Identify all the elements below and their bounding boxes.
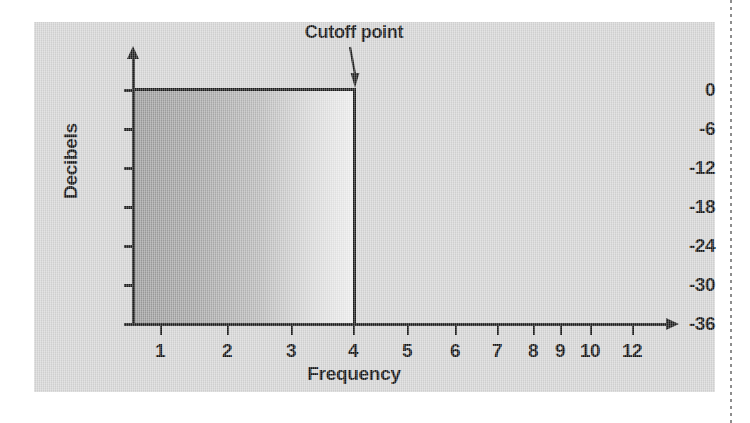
y-tick-label: -12 [653, 157, 715, 179]
cutoff-point-label: Cutoff point [214, 22, 494, 43]
y-tick-label: -36 [653, 313, 715, 335]
x-tick-label: 7 [492, 340, 502, 362]
cutoff-point-arrow-icon [346, 46, 364, 88]
y-tick [124, 128, 133, 131]
x-tick [632, 326, 634, 335]
x-tick [497, 326, 499, 335]
x-axis-title: Frequency [34, 363, 674, 385]
x-tick-label: 5 [402, 340, 412, 362]
y-tick [124, 245, 133, 248]
passband-top-edge [132, 88, 356, 91]
y-axis-arrow-icon [127, 46, 139, 59]
x-tick [353, 326, 355, 335]
x-tick-label: 10 [580, 340, 600, 362]
x-tick-label: 12 [622, 340, 642, 362]
x-tick [291, 326, 293, 335]
y-tick [124, 323, 133, 326]
y-tick-label: 0 [653, 79, 715, 101]
page-edge-divider [730, 0, 732, 423]
y-tick-label: -6 [653, 118, 715, 140]
x-tick [533, 326, 535, 335]
passband-region [134, 90, 354, 324]
y-axis-title: Decibels [60, 106, 82, 216]
x-tick-label: 6 [450, 340, 460, 362]
x-tick-label: 4 [348, 340, 358, 362]
x-tick-label: 3 [286, 340, 296, 362]
x-tick [160, 326, 162, 335]
x-tick [455, 326, 457, 335]
y-tick [124, 89, 133, 92]
y-tick-label: -24 [653, 235, 715, 257]
x-tick [590, 326, 592, 335]
x-tick-label: 8 [528, 340, 538, 362]
figure-panel: 0 -6 -12 -18 -24 -30 -36 1 2 3 4 5 6 7 8… [34, 22, 715, 392]
x-tick [407, 326, 409, 335]
x-tick-label: 2 [222, 340, 232, 362]
x-tick [560, 326, 562, 335]
y-tick [124, 284, 133, 287]
y-tick-label: -30 [653, 274, 715, 296]
x-tick-label: 1 [155, 340, 165, 362]
y-tick [124, 206, 133, 209]
cutoff-line [353, 88, 356, 326]
y-tick-label: -18 [653, 196, 715, 218]
x-tick-label: 9 [555, 340, 565, 362]
y-tick [124, 167, 133, 170]
x-tick [227, 326, 229, 335]
